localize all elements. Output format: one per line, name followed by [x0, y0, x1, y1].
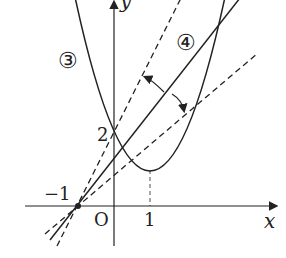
origin-label: O	[94, 209, 109, 230]
y-axis-label: y	[119, 0, 132, 13]
rotation-arrow-up	[145, 77, 164, 92]
tick-label-x-one: 1	[144, 209, 155, 230]
coordinate-diagram: y x O 1 2 −1 ③ ④	[0, 0, 286, 258]
parabola-curve	[74, 0, 227, 171]
tick-label-y-two: 2	[97, 124, 108, 145]
tick-label-neg-one: −1	[44, 183, 71, 204]
point-neg-one	[75, 203, 81, 209]
dashed-tangent-steep	[57, 0, 182, 246]
curve-label-3: ③	[58, 48, 78, 73]
curve-label-4: ④	[176, 30, 196, 55]
rotation-arrow-down	[172, 94, 184, 111]
x-axis-label: x	[264, 209, 275, 233]
